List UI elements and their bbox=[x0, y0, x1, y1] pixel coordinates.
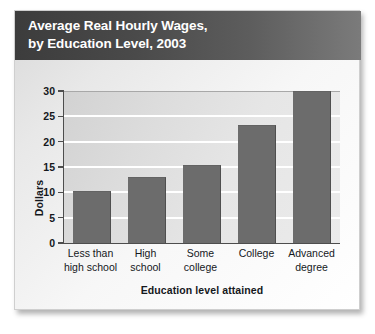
bar-series bbox=[64, 91, 340, 243]
bar bbox=[128, 177, 166, 243]
x-axis-category-label-line: Advanced bbox=[278, 246, 345, 260]
y-axis-tick-label: 25 bbox=[43, 110, 55, 122]
y-axis-tick-label: 15 bbox=[43, 161, 55, 173]
chart-screenshot: Average Real Hourly Wages, by Education … bbox=[0, 0, 375, 334]
y-axis-tick-label: 20 bbox=[43, 136, 55, 148]
plot-area: 051015202530 bbox=[63, 91, 340, 244]
chart-card: Average Real Hourly Wages, by Education … bbox=[14, 10, 360, 310]
chart-title-line-1: Average Real Hourly Wages, bbox=[28, 17, 348, 35]
y-axis-tick-label: 30 bbox=[43, 85, 55, 97]
bar bbox=[183, 165, 221, 243]
chart-title-line-2: by Education Level, 2003 bbox=[28, 35, 348, 53]
bar bbox=[238, 125, 276, 243]
page-title: Average Real Hourly Wages, by Education … bbox=[28, 17, 348, 53]
y-axis-tick-label: 10 bbox=[43, 186, 55, 198]
bar bbox=[73, 191, 111, 243]
x-axis-category-label-line: degree bbox=[278, 260, 345, 274]
x-axis-category-label: Advanceddegree bbox=[278, 246, 345, 274]
chart-title-bar: Average Real Hourly Wages, by Education … bbox=[15, 11, 361, 60]
y-axis-tick-label: 5 bbox=[49, 212, 55, 224]
x-axis-category-labels: Less thanhigh schoolHighschoolSomecolleg… bbox=[63, 246, 341, 282]
chart-region: Dollars 051015202530 Less thanhigh schoo… bbox=[15, 60, 361, 310]
bar bbox=[293, 91, 331, 243]
x-axis-category-label-line: college bbox=[167, 260, 234, 274]
y-axis-tick-label: 0 bbox=[49, 237, 55, 249]
x-axis-title: Education level attained bbox=[63, 284, 341, 296]
